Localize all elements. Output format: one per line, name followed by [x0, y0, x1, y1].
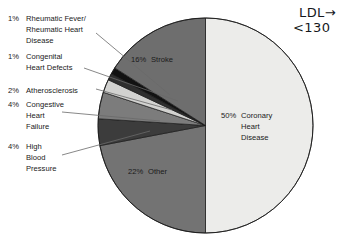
callout-label-congestive-heart-failure: 4% Congestive Heart Failure — [8, 99, 113, 133]
slice-text: Other — [148, 166, 167, 177]
slice-percent: 22% — [128, 166, 148, 177]
slice-text: Coronary Heart Disease — [241, 110, 272, 144]
callout-text: Rheumatic Fever/ Rheumatic Heart Disease — [26, 13, 86, 47]
pie-chart-figure: 1% Rheumatic Fever/ Rheumatic Heart Dise… — [0, 0, 357, 252]
callout-text: Atherosclerosis — [26, 85, 78, 96]
handwritten-line-1: LDL→ — [299, 5, 336, 20]
slice-label-stroke: 16% Stroke — [131, 54, 211, 65]
slice-text: Stroke — [151, 54, 173, 65]
callout-percent: 1% — [8, 13, 26, 24]
handwritten-annotation: LDL→ <130 — [299, 6, 336, 34]
callout-label-rheumatic-fever: 1% Rheumatic Fever/ Rheumatic Heart Dise… — [8, 13, 113, 47]
callout-percent: 1% — [8, 51, 26, 62]
callout-label-high-blood-pressure: 4% High Blood Pressure — [8, 141, 113, 175]
slice-percent: 50% — [221, 110, 241, 121]
slice-label-coronary-heart-disease: 50% Coronary Heart Disease — [221, 110, 311, 144]
callout-label-atherosclerosis: 2% Atherosclerosis — [8, 85, 118, 96]
callout-label-congenital-heart-defects: 1% Congenital Heart Defects — [8, 51, 113, 73]
callout-percent: 2% — [8, 85, 26, 96]
callout-text: Congenital Heart Defects — [26, 51, 72, 73]
callout-text: Congestive Heart Failure — [26, 99, 64, 133]
callout-text: High Blood Pressure — [26, 141, 56, 175]
handwritten-line-2: <130 — [293, 21, 336, 34]
slice-percent: 16% — [131, 54, 151, 65]
slice-label-other: 22% Other — [128, 166, 208, 177]
callout-percent: 4% — [8, 141, 26, 152]
callout-percent: 4% — [8, 99, 26, 110]
